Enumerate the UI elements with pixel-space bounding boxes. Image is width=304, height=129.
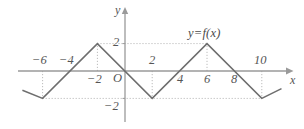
- x-tick-label-neg6: −6: [32, 54, 47, 67]
- x-tick-label-neg2: −2: [87, 73, 102, 86]
- y-tick-label-neg2: −2: [104, 100, 119, 113]
- graph-figure: y x O −6 −4 2 10 −2 4 6 8 2 −2 y=f(x): [0, 0, 304, 129]
- function-annotation: y=f(x): [188, 27, 221, 40]
- x-tick-label-8: 8: [231, 73, 237, 86]
- x-tick-label-neg4: −4: [59, 54, 74, 67]
- x-tick-label-4: 4: [177, 73, 183, 86]
- origin-label: O: [113, 72, 122, 85]
- y-axis-arrow-icon: [122, 7, 128, 14]
- y-axis-label: y: [115, 4, 120, 16]
- x-tick-label-2: 2: [149, 54, 155, 67]
- x-tick-label-6: 6: [204, 73, 210, 86]
- y-tick-label-2: 2: [113, 36, 119, 49]
- x-axis-label: x: [290, 74, 295, 86]
- x-tick-label-10: 10: [254, 54, 267, 67]
